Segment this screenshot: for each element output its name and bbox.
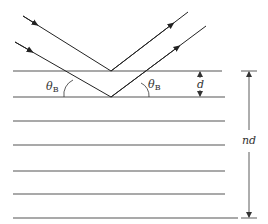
- thickness-dimension: nd: [241, 71, 257, 218]
- bragg-diagram: θB θB d nd: [0, 0, 268, 224]
- angle-label-right: θB: [148, 78, 161, 92]
- reflected-arrow-upper-icon: [111, 24, 172, 71]
- incident-ray-upper: [23, 16, 111, 71]
- angle-arc-left: [64, 80, 73, 97]
- incident-arrow-lower-icon: [15, 42, 31, 51]
- spacing-label: d: [197, 78, 204, 91]
- incident-arrow-upper-icon: [23, 16, 36, 24]
- reflected-arrow-lower-icon: [111, 47, 178, 97]
- crystal-planes: [13, 71, 238, 218]
- angle-label-left: θB: [46, 80, 59, 94]
- spacing-dimension: d: [197, 72, 204, 96]
- incident-rays: [15, 16, 111, 97]
- thickness-label: nd: [242, 134, 256, 147]
